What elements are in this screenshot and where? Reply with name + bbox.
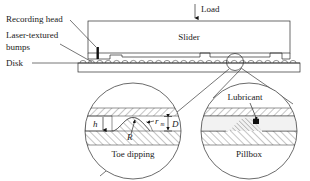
detail-left-R-label: R — [126, 132, 133, 142]
laser-textured-leader — [60, 44, 92, 62]
detail-left-rm-label: r — [155, 116, 159, 126]
detail-left-group: h D r m R Toe dipping — [85, 83, 181, 179]
detail-right-lubricant-label: Lubricant — [228, 92, 263, 102]
detail-right-caption: Pillbox — [236, 149, 263, 159]
schematic-svg: Load Slider — [0, 0, 310, 181]
disk-body — [78, 63, 300, 72]
detail-left-rm-subscript: m — [161, 121, 165, 127]
recording-head-label: Recording head — [6, 14, 63, 24]
detail-right-slider-band — [201, 108, 297, 116]
detail-right-pillbox-marker — [253, 119, 259, 124]
detail-left-slider-band — [85, 108, 181, 116]
detail-right-group: Lubricant Pillbox — [201, 83, 297, 179]
slider-air-bearing-profile — [88, 53, 290, 59]
figure-root: Load Slider — [0, 0, 310, 181]
disk-label: Disk — [6, 58, 24, 68]
load-label: Load — [201, 4, 220, 14]
laser-textured-label-line2: bumps — [6, 42, 31, 52]
slider-label: Slider — [178, 32, 200, 42]
laser-textured-label-line1: Laser-textured — [6, 30, 59, 40]
label-leader-lines — [32, 20, 96, 63]
detail-left-caption: Toe dipping — [111, 149, 155, 159]
laser-textured-bumps-row — [80, 60, 296, 63]
recording-head-element — [97, 47, 99, 59]
detail-left-h-label: h — [93, 119, 98, 129]
detail-left-D-label: D — [171, 119, 179, 129]
